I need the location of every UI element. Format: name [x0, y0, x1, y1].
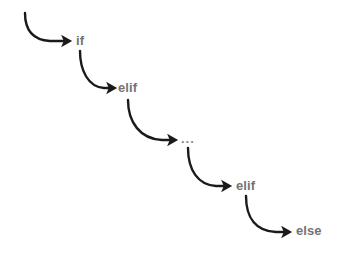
arrow-layer	[0, 0, 345, 255]
node-label-else: else	[296, 224, 322, 237]
arrow-entry-to-if	[25, 13, 64, 41]
node-label-elif-1: elif	[118, 81, 137, 94]
node-label-ellipsis: ...	[181, 132, 195, 145]
arrow-elif-2-to-else	[246, 196, 284, 232]
node-label-if: if	[76, 34, 84, 47]
arrow-ellipsis-to-elif-2	[188, 148, 224, 186]
arrow-elif-1-to-ellipsis	[128, 100, 170, 140]
flowchart-diagram: if elif ... elif else	[0, 0, 345, 255]
node-label-elif-2: elif	[236, 179, 255, 192]
arrow-if-to-elif-1	[80, 51, 109, 88]
